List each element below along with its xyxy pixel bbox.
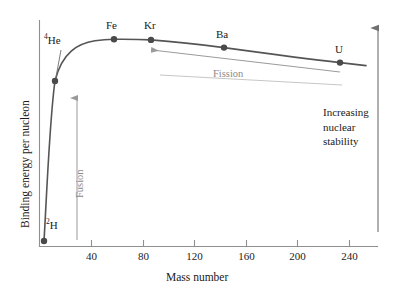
y-axis-title: Binding energy per nucleon <box>19 100 32 228</box>
marker-label-ba: Ba <box>216 28 228 41</box>
marker-he4 <box>52 78 58 84</box>
marker-label-h2: 2H <box>46 219 58 232</box>
x-tick-label-200: 200 <box>282 250 313 263</box>
marker-label-h2-base: H <box>50 219 58 231</box>
fission-arrow <box>152 50 340 72</box>
marker-label-he4: 4He <box>44 34 61 47</box>
fission-baseline <box>160 75 342 85</box>
marker-kr <box>148 37 154 43</box>
marker-label-u: U <box>335 43 343 56</box>
he4-leader-line <box>56 50 61 77</box>
x-tick-label-40: 40 <box>76 250 107 263</box>
x-tick-label-80: 80 <box>128 250 159 263</box>
x-tick-label-240: 240 <box>334 250 365 263</box>
binding-energy-curve-figure: 40 80 120 160 200 240 Mass number Bindin… <box>0 0 401 295</box>
stability-annotation-label: Increasing nuclear stability <box>323 105 369 149</box>
marker-fe <box>111 36 117 42</box>
stability-line-3: stability <box>323 134 369 149</box>
marker-label-he4-base: He <box>48 34 61 46</box>
x-tick-label-160: 160 <box>231 250 262 263</box>
fission-annotation-label: Fission <box>213 68 243 80</box>
marker-ba <box>221 44 227 50</box>
stability-line-2: nuclear <box>323 120 369 135</box>
marker-label-fe: Fe <box>106 19 117 32</box>
marker-label-kr: Kr <box>144 19 156 32</box>
marker-h2 <box>41 238 47 244</box>
stability-line-1: Increasing <box>323 105 369 120</box>
fusion-annotation-label: Fusion <box>74 169 86 198</box>
x-tick-label-120: 120 <box>179 250 210 263</box>
x-axis-title: Mass number <box>166 271 228 284</box>
marker-u <box>337 59 343 65</box>
